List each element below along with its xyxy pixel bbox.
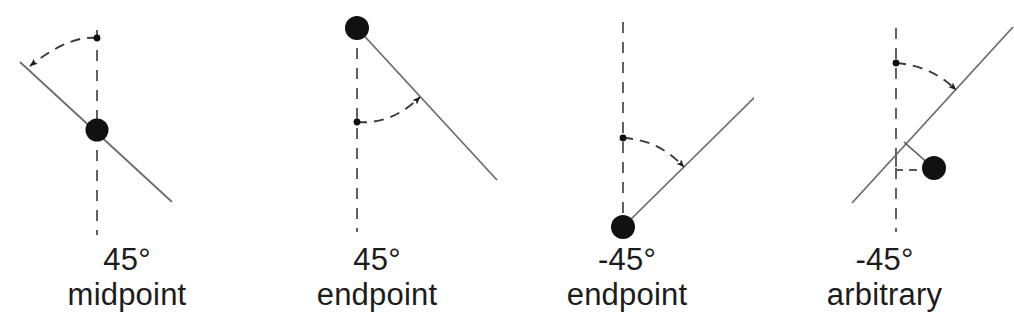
rotated-line (357, 28, 497, 180)
panel-3-kind-label: endpoint (500, 278, 754, 313)
diagram-panel-45-midpoint: 45° midpoint (0, 0, 254, 335)
panel-1-angle-label: 45° (0, 243, 254, 278)
panel-3-illustration (500, 0, 754, 245)
rotation-arc (623, 138, 684, 167)
axis-pivot-dot (94, 35, 101, 42)
anchor-marker (345, 16, 369, 40)
axis-pivot-dot (620, 135, 627, 142)
panel-2-angle-label: 45° (250, 243, 504, 278)
panel-4-angle-label: -45° (755, 243, 1014, 278)
rotation-arc (30, 38, 97, 66)
rotation-arc (357, 97, 420, 122)
anchor-marker (922, 156, 946, 180)
rotated-line (623, 86, 754, 227)
panel-3-angle-label: -45° (500, 243, 754, 278)
panel-4-caption: -45° arbitrary (755, 243, 1014, 312)
diagram-panel-minus45-arbitrary: -45° arbitrary (755, 0, 1014, 335)
panel-1-illustration (0, 0, 254, 245)
axis-pivot-dot (893, 60, 900, 67)
rotation-anchor-figure: 45° midpoint 45° endpoint (0, 0, 1014, 335)
panel-2-caption: 45° endpoint (250, 243, 504, 312)
axis-pivot-dot (354, 119, 361, 126)
rotation-arc (896, 63, 956, 90)
panel-3-caption: -45° endpoint (500, 243, 754, 312)
anchor-marker (86, 119, 109, 142)
diagram-panel-45-endpoint: 45° endpoint (250, 0, 504, 335)
panel-2-illustration (250, 0, 504, 245)
anchor-marker (611, 215, 635, 239)
diagram-panel-minus45-endpoint: -45° endpoint (500, 0, 754, 335)
panel-1-caption: 45° midpoint (0, 243, 254, 312)
panel-1-kind-label: midpoint (0, 278, 254, 313)
panel-2-kind-label: endpoint (250, 278, 504, 313)
panel-4-kind-label: arbitrary (755, 278, 1014, 313)
panel-4-illustration (755, 0, 1014, 245)
